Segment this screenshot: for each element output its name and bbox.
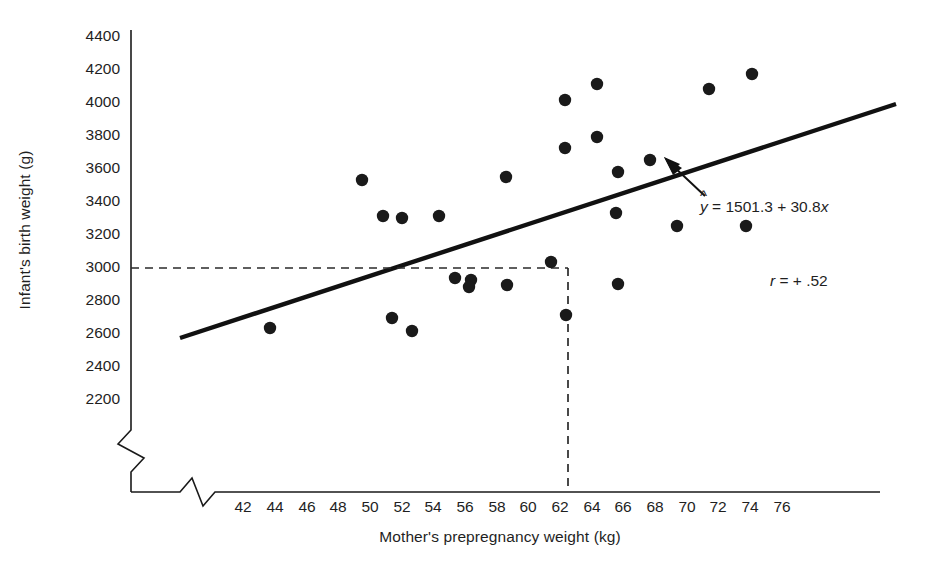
y-tick-label: 3000 xyxy=(60,258,120,276)
r-value: = + .52 xyxy=(775,272,828,289)
data-point xyxy=(264,322,276,334)
data-point xyxy=(644,154,656,166)
y-tick-label: 4400 xyxy=(60,27,120,45)
data-point xyxy=(671,220,683,232)
x-tick-label: 54 xyxy=(418,498,448,516)
data-point xyxy=(559,94,571,106)
data-point xyxy=(356,174,368,186)
x-tick-label: 60 xyxy=(513,498,543,516)
data-point xyxy=(559,142,571,154)
x-tick-label: 56 xyxy=(450,498,480,516)
prediction-guide-lines xyxy=(131,268,568,492)
regression-line xyxy=(180,104,896,338)
plot-canvas xyxy=(0,0,947,580)
hat-accent: ^ xyxy=(700,187,707,204)
data-point xyxy=(545,256,557,268)
data-point xyxy=(746,68,758,80)
data-point xyxy=(703,83,715,95)
data-point xyxy=(433,210,445,222)
y-tick-label: 3600 xyxy=(60,159,120,177)
data-point xyxy=(396,212,408,224)
y-tick-label: 4200 xyxy=(60,60,120,78)
data-point xyxy=(377,210,389,222)
x-axis-title: Mother's prepregnancy weight (kg) xyxy=(330,528,670,546)
x-tick-label: 76 xyxy=(767,498,797,516)
data-point xyxy=(560,309,572,321)
y-axis-title: Infant's birth weight (g) xyxy=(16,60,34,400)
x-tick-label: 44 xyxy=(260,498,290,516)
data-point xyxy=(591,131,603,143)
data-point xyxy=(501,279,513,291)
equation-body: = 1501.3 + 30.8 xyxy=(708,198,821,215)
data-point xyxy=(406,325,418,337)
data-point xyxy=(591,78,603,90)
x-tick-label: 66 xyxy=(608,498,638,516)
data-point xyxy=(612,278,624,290)
y-tick-label: 3200 xyxy=(60,225,120,243)
x-tick-label: 42 xyxy=(228,498,258,516)
x-tick-label: 64 xyxy=(577,498,607,516)
x-tick-label: 52 xyxy=(387,498,417,516)
y-tick-label: 3400 xyxy=(60,192,120,210)
y-tick-label: 4000 xyxy=(60,93,120,111)
y-tick-label: 2800 xyxy=(60,291,120,309)
x-tick-label: 50 xyxy=(355,498,385,516)
y-tick-label: 2200 xyxy=(60,390,120,408)
data-point xyxy=(463,281,475,293)
data-point xyxy=(500,171,512,183)
y-hat-symbol: ^y xyxy=(700,198,708,216)
x-tick-label: 62 xyxy=(545,498,575,516)
y-tick-label: 2400 xyxy=(60,357,120,375)
x-tick-label: 46 xyxy=(292,498,322,516)
data-points xyxy=(264,68,758,337)
data-point xyxy=(610,207,622,219)
x-tick-label: 70 xyxy=(672,498,702,516)
x-tick-label: 74 xyxy=(735,498,765,516)
data-point xyxy=(612,166,624,178)
scatter-plot-figure: Infant's birth weight (g) Mother's prepr… xyxy=(0,0,947,580)
y-tick-label: 2600 xyxy=(60,324,120,342)
y-tick-label: 3800 xyxy=(60,126,120,144)
correlation-annotation: r = + .52 xyxy=(770,272,828,290)
x-tick-label: 68 xyxy=(640,498,670,516)
x-tick-label: 58 xyxy=(482,498,512,516)
regression-equation-annotation: ^y = 1501.3 + 30.8x xyxy=(700,198,828,216)
data-point xyxy=(740,220,752,232)
x-tick-label: 72 xyxy=(703,498,733,516)
x-tick-label: 48 xyxy=(323,498,353,516)
x-variable: x xyxy=(821,198,829,215)
data-point xyxy=(386,312,398,324)
data-point xyxy=(449,272,461,284)
y-axis xyxy=(118,30,144,492)
